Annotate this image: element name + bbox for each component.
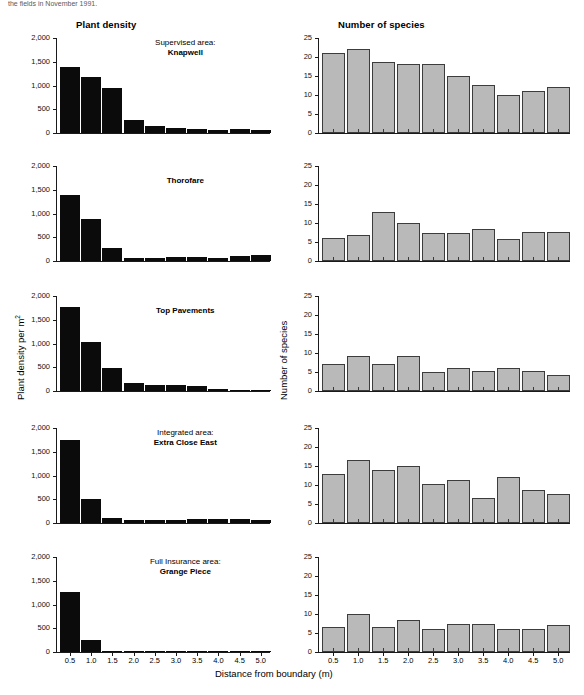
x-axis-line: [318, 523, 570, 524]
bar: [397, 223, 420, 261]
bar-base-tick: [458, 648, 459, 652]
y-axis-tick-label: 500: [16, 105, 50, 113]
bar-base-tick: [333, 257, 334, 261]
bar-base-tick: [433, 129, 434, 133]
x-axis-line: [318, 133, 570, 134]
y-axis-tick-label: 5: [278, 110, 312, 118]
y-axis-tick-label: 0: [16, 257, 50, 265]
bar-base-tick: [508, 129, 509, 133]
chart-panel-knapwell-left: 05001,0001,5002,000Supervised area:Knapw…: [56, 38, 298, 134]
y-axis-tick: [53, 652, 56, 653]
y-axis-tick-label: 25: [278, 162, 312, 170]
bar: [60, 592, 80, 652]
bar-base-tick: [433, 257, 434, 261]
y-axis-tick-label: 25: [278, 553, 312, 561]
y-axis-tick: [53, 499, 56, 500]
x-axis-tick-label: 3.5: [471, 657, 495, 665]
y-axis-tick: [315, 595, 318, 596]
bar: [422, 64, 445, 133]
y-axis-tick: [315, 38, 318, 39]
y-axis-tick-label: 0: [16, 519, 50, 527]
bar: [187, 257, 207, 261]
y-axis-tick-label: 1,500: [16, 186, 50, 194]
x-axis-tick-label: 5.0: [249, 657, 273, 665]
chart-panel-extra-close-east-right: 0510152025: [318, 428, 584, 524]
x-axis-tick-label: 1.0: [346, 657, 370, 665]
y-axis-tick-label: 0: [278, 648, 312, 656]
y-axis-line: [318, 38, 319, 134]
y-axis-tick: [315, 466, 318, 467]
y-axis-tick: [53, 628, 56, 629]
bar: [547, 87, 570, 133]
bar: [145, 126, 165, 133]
bar-base-tick: [333, 519, 334, 523]
y-axis-tick-label: 1,000: [16, 601, 50, 609]
y-axis-tick-label: 5: [278, 500, 312, 508]
bar-base-tick: [358, 257, 359, 261]
bar: [60, 195, 80, 261]
y-axis-tick: [53, 344, 56, 345]
y-axis-tick-label: 20: [278, 572, 312, 580]
y-axis-tick-label: 15: [278, 591, 312, 599]
panel-title-text: Knapwell: [120, 48, 251, 58]
bar: [124, 651, 144, 652]
y-axis-tick-label: 5: [278, 629, 312, 637]
y-axis-tick: [315, 261, 318, 262]
bar: [208, 130, 228, 133]
y-axis-line: [318, 296, 319, 392]
x-axis-tick-label: 4.0: [496, 657, 520, 665]
panel-subtitle-text: Supervised area:: [120, 38, 251, 48]
y-axis-tick-label: 0: [278, 519, 312, 527]
y-axis-line: [56, 428, 57, 524]
column-title-number-of-species: Number of species: [338, 19, 425, 30]
bar: [397, 356, 420, 391]
bar: [166, 385, 186, 391]
bar-base-tick: [383, 519, 384, 523]
y-axis-tick-label: 500: [16, 495, 50, 503]
bar: [166, 651, 186, 652]
bar-base-tick: [458, 129, 459, 133]
bar-base-tick: [483, 387, 484, 391]
y-axis-tick: [53, 261, 56, 262]
bar-base-tick: [408, 648, 409, 652]
y-axis-tick: [315, 633, 318, 634]
y-axis-tick-label: 15: [278, 200, 312, 208]
y-axis-tick: [315, 133, 318, 134]
bar: [230, 519, 250, 523]
bar-base-tick: [458, 257, 459, 261]
chart-panel-top-pavements-right: 0510152025: [318, 296, 584, 392]
bar: [124, 383, 144, 391]
bar: [230, 651, 250, 652]
x-axis-tick-label: 5.0: [546, 657, 570, 665]
y-axis-tick-label: 1,500: [16, 316, 50, 324]
chart-panel-top-pavements-left: 05001,0001,5002,000Top Pavements: [56, 296, 298, 392]
y-axis-tick-label: 1,500: [16, 577, 50, 585]
bar: [372, 212, 395, 261]
bar: [230, 129, 250, 133]
bar: [208, 389, 228, 391]
chart-panel-thorofare-left: 05001,0001,5002,000Thorofare: [56, 166, 298, 262]
y-axis-tick-label: 15: [278, 72, 312, 80]
bar-base-tick: [508, 257, 509, 261]
bar: [447, 480, 470, 523]
bar-base-tick: [483, 129, 484, 133]
bar-base-tick: [458, 519, 459, 523]
bar: [322, 474, 345, 523]
y-axis-tick-label: 2,000: [16, 34, 50, 42]
bar: [102, 518, 122, 523]
x-axis-tick-label: 4.5: [521, 657, 545, 665]
bar: [60, 67, 80, 134]
y-axis-tick-label: 1,500: [16, 58, 50, 66]
bar: [208, 519, 228, 523]
y-axis-tick: [315, 223, 318, 224]
y-axis-tick: [315, 372, 318, 373]
panel-title-text: Top Pavements: [120, 306, 251, 316]
bar: [187, 129, 207, 133]
panel-subtitle-text: Integrated area:: [120, 428, 251, 438]
y-axis-tick: [53, 214, 56, 215]
y-axis-line: [56, 557, 57, 653]
panel-title-text: Extra Close East: [120, 438, 251, 448]
bar: [251, 390, 271, 391]
chart-panel-grange-piece-left: 05001,0001,5002,0000.51.01.52.02.53.03.5…: [56, 557, 298, 653]
bar-base-tick: [383, 387, 384, 391]
